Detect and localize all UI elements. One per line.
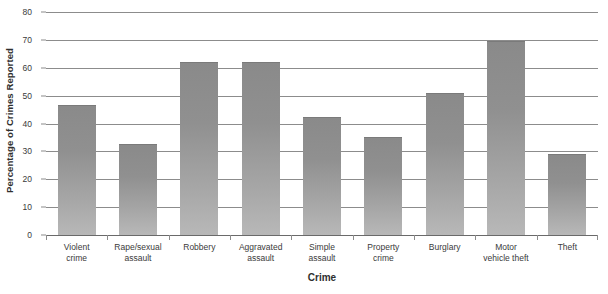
x-tick-label-line: Simple	[291, 242, 352, 253]
x-tick-mark	[537, 235, 538, 240]
x-tick-label-line: Burglary	[414, 242, 475, 253]
x-tick-label: Robbery	[169, 242, 230, 253]
x-tick-mark	[353, 235, 354, 240]
bar	[303, 117, 341, 235]
bar	[487, 41, 525, 235]
x-tick-mark	[169, 235, 170, 240]
y-tick-label: 70	[23, 35, 32, 45]
bar	[119, 144, 157, 235]
bar-chart: Percentage of Crimes Reported 0102030405…	[0, 0, 608, 294]
x-tick-mark	[107, 235, 108, 240]
x-tick-label-line: Theft	[537, 242, 598, 253]
x-axis-title: Crime	[46, 272, 598, 283]
x-axis-labels: ViolentcrimeRape/sexualassaultRobberyAgg…	[46, 242, 598, 272]
y-tick-label: 10	[23, 202, 32, 212]
x-tick-label-line: crime	[46, 253, 107, 264]
x-tick-mark	[291, 235, 292, 240]
bar	[364, 137, 402, 235]
x-tick-label: Violentcrime	[46, 242, 107, 263]
x-tick-label: Aggravatedassault	[230, 242, 291, 263]
x-tick-label: Motorvehicle theft	[475, 242, 536, 263]
y-tick-label: 50	[23, 91, 32, 101]
y-tick-label: 30	[23, 146, 32, 156]
x-axis-ticks	[46, 235, 598, 241]
y-axis-labels: 01020304050607080	[0, 0, 46, 294]
x-tick-label-line: assault	[291, 253, 352, 264]
x-tick-mark	[46, 235, 47, 240]
bar	[58, 105, 96, 235]
y-tick-label: 20	[23, 174, 32, 184]
x-tick-label: Simpleassault	[291, 242, 352, 263]
y-tick-label: 0	[27, 230, 32, 240]
x-tick-label-line: Motor	[475, 242, 536, 253]
x-tick-label-line: Violent	[46, 242, 107, 253]
bar	[548, 154, 586, 235]
x-tick-label: Burglary	[414, 242, 475, 253]
bar	[242, 62, 280, 235]
x-tick-label-line: Aggravated	[230, 242, 291, 253]
x-tick-label: Theft	[537, 242, 598, 253]
bar	[426, 93, 464, 235]
x-tick-label-line: crime	[353, 253, 414, 264]
x-tick-label-line: assault	[107, 253, 168, 264]
x-tick-mark	[597, 235, 598, 240]
y-tick-label: 60	[23, 63, 32, 73]
bars-layer	[46, 12, 598, 235]
x-tick-label: Rape/sexualassault	[107, 242, 168, 263]
y-tick-label: 40	[23, 119, 32, 129]
y-tick-label: 80	[23, 7, 32, 17]
x-tick-label-line: assault	[230, 253, 291, 264]
x-tick-mark	[475, 235, 476, 240]
x-tick-label: Propertycrime	[353, 242, 414, 263]
bar	[180, 62, 218, 235]
x-tick-label-line: Rape/sexual	[107, 242, 168, 253]
x-tick-label-line: Property	[353, 242, 414, 253]
x-tick-label-line: vehicle theft	[475, 253, 536, 264]
x-tick-mark	[230, 235, 231, 240]
x-tick-label-line: Robbery	[169, 242, 230, 253]
x-tick-mark	[414, 235, 415, 240]
